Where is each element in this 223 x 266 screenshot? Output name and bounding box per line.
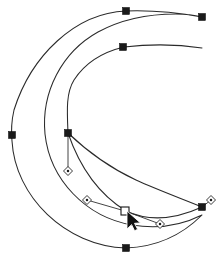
node-bottom-outer[interactable] xyxy=(123,245,130,252)
handle-line-group xyxy=(68,133,211,224)
vector-editing-canvas[interactable] xyxy=(0,0,223,266)
node-leaf-left[interactable] xyxy=(65,130,72,137)
anchor-node-group[interactable] xyxy=(9,8,206,252)
node-left-outer[interactable] xyxy=(9,132,16,139)
node-right-outer[interactable] xyxy=(199,14,206,21)
node-top-outer[interactable] xyxy=(123,8,130,15)
handle-knob-leaf-right-out[interactable] xyxy=(207,196,216,205)
leaf-subpath-lower[interactable] xyxy=(68,133,202,218)
crescent-inner-edge[interactable] xyxy=(67,45,202,133)
node-top-inner[interactable] xyxy=(120,44,127,51)
handle-knob-leaf-left-down[interactable] xyxy=(64,167,73,176)
leaf-subpath-upper[interactable] xyxy=(68,133,202,207)
path-group[interactable] xyxy=(11,11,202,248)
path-preview-svg[interactable] xyxy=(0,0,223,266)
node-leaf-right[interactable] xyxy=(199,204,206,211)
crescent-outer-path[interactable] xyxy=(11,11,202,248)
